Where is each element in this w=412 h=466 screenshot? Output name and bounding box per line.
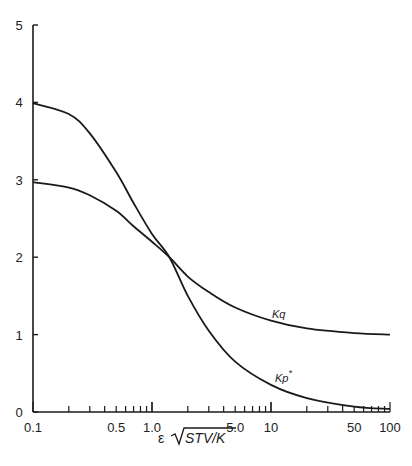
axes: [33, 25, 390, 412]
chart-canvas: 012345 0.10.51.05.01050100 Kq Kp* ε STV/…: [0, 0, 412, 466]
curve-kp-star: [33, 103, 390, 409]
x-tick-label: 100: [379, 420, 401, 435]
y-ticks: 012345: [15, 18, 38, 420]
y-tick-label: 3: [15, 173, 22, 188]
kp-star-label: Kp*: [275, 368, 292, 384]
x-tick-label: 0.5: [107, 420, 125, 435]
x-tick-label: 10: [264, 420, 278, 435]
x-tick-label: 0.1: [24, 420, 42, 435]
y-tick-label: 1: [15, 328, 22, 343]
y-tick-label: 5: [15, 18, 22, 33]
curve-kq: [33, 182, 390, 334]
x-axis-title: ε STV/K: [158, 428, 236, 446]
y-tick-label: 2: [15, 250, 22, 265]
epsilon-symbol: ε: [158, 430, 164, 446]
x-tick-label: 50: [347, 420, 361, 435]
y-tick-label: 4: [15, 95, 22, 110]
radical-content: STV/K: [185, 430, 226, 446]
kq-label: Kq: [272, 308, 286, 320]
curves: [33, 103, 390, 409]
y-tick-label: 0: [15, 405, 22, 420]
